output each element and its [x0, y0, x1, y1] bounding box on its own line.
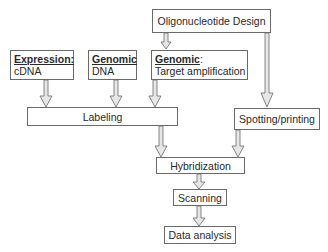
node-label: Target amplification: [155, 65, 245, 77]
arrow-target-to-labeling: [149, 80, 161, 107]
node-label: Data analysis: [168, 229, 231, 241]
node-oligonucleotide-design: Oligonucleotide Design: [152, 9, 271, 33]
node-genomic-dna: Genomic DNA: [88, 50, 137, 80]
node-label: Spotting/printing: [239, 113, 315, 125]
node-labeling: Labeling: [27, 107, 178, 126]
node-label: Scanning: [178, 192, 222, 204]
arrow-expr-to-labeling: [40, 80, 52, 107]
node-heading: Genomic: [92, 53, 136, 65]
node-label: cDNA: [14, 65, 41, 77]
arrow-spotting-to-hyb: [232, 130, 244, 157]
node-scanning: Scanning: [173, 189, 227, 206]
node-heading-suffix: :: [200, 53, 203, 65]
arrow-hyb-to-scan: [193, 174, 205, 189]
node-genomic-target-amplification: Genomic: Target amplification: [151, 50, 248, 80]
node-label: DNA: [92, 65, 114, 77]
node-expression-cdna: Expression: cDNA: [10, 50, 74, 80]
node-heading: Genomic: [155, 53, 200, 65]
node-spotting-printing: Spotting/printing: [234, 108, 320, 130]
arrow-oligo-to-spotting: [261, 33, 273, 107]
node-data-analysis: Data analysis: [164, 226, 236, 244]
arrow-scan-to-analysis: [193, 206, 205, 226]
arrow-labeling-to-hyb: [155, 126, 167, 157]
arrow-oligo-to-target: [161, 33, 171, 49]
arrow-gdna-to-labeling: [110, 80, 122, 107]
node-label: Hybridization: [170, 160, 231, 172]
node-heading: Expression:: [14, 53, 73, 65]
node-label: Labeling: [83, 111, 123, 123]
node-hybridization: Hybridization: [156, 157, 245, 174]
node-label: Oligonucleotide Design: [158, 15, 266, 27]
